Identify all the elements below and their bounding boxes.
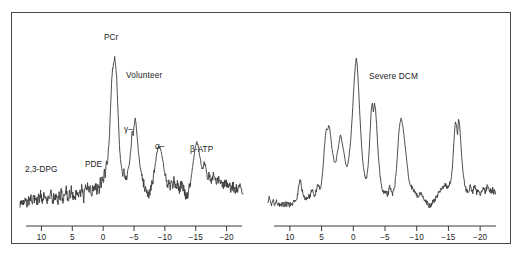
- x-axis-tick-label: −5: [380, 233, 390, 242]
- x-axis-tick-label: 10: [37, 233, 46, 242]
- x-axis-severe-dcm: [256, 13, 512, 245]
- spectroscopy-figure: Volunteer 2,3-DPG PDE PCr γ– α– β-ATP 10…: [0, 0, 524, 257]
- x-axis-volunteer: [12, 13, 256, 245]
- x-axis-tick-label: −5: [129, 233, 139, 242]
- x-axis-tick-label: −20: [219, 233, 233, 242]
- x-axis-tick-label: −15: [441, 233, 455, 242]
- x-axis-tick-label: 10: [285, 233, 294, 242]
- panel-severe-dcm: Severe DCM 1050−5−10−15−20: [256, 13, 512, 243]
- x-axis-tick-label: −20: [473, 233, 487, 242]
- x-axis-tick-label: 0: [101, 233, 106, 242]
- x-axis-tick-label: −15: [189, 233, 203, 242]
- figure-frame: Volunteer 2,3-DPG PDE PCr γ– α– β-ATP 10…: [11, 12, 511, 244]
- x-axis-tick-label: 5: [319, 233, 324, 242]
- panel-volunteer: Volunteer 2,3-DPG PDE PCr γ– α– β-ATP 10…: [12, 13, 256, 243]
- x-axis-tick-label: 0: [351, 233, 356, 242]
- x-axis-tick-label: −10: [158, 233, 172, 242]
- x-axis-tick-label: −10: [410, 233, 424, 242]
- x-axis-tick-label: 5: [70, 233, 75, 242]
